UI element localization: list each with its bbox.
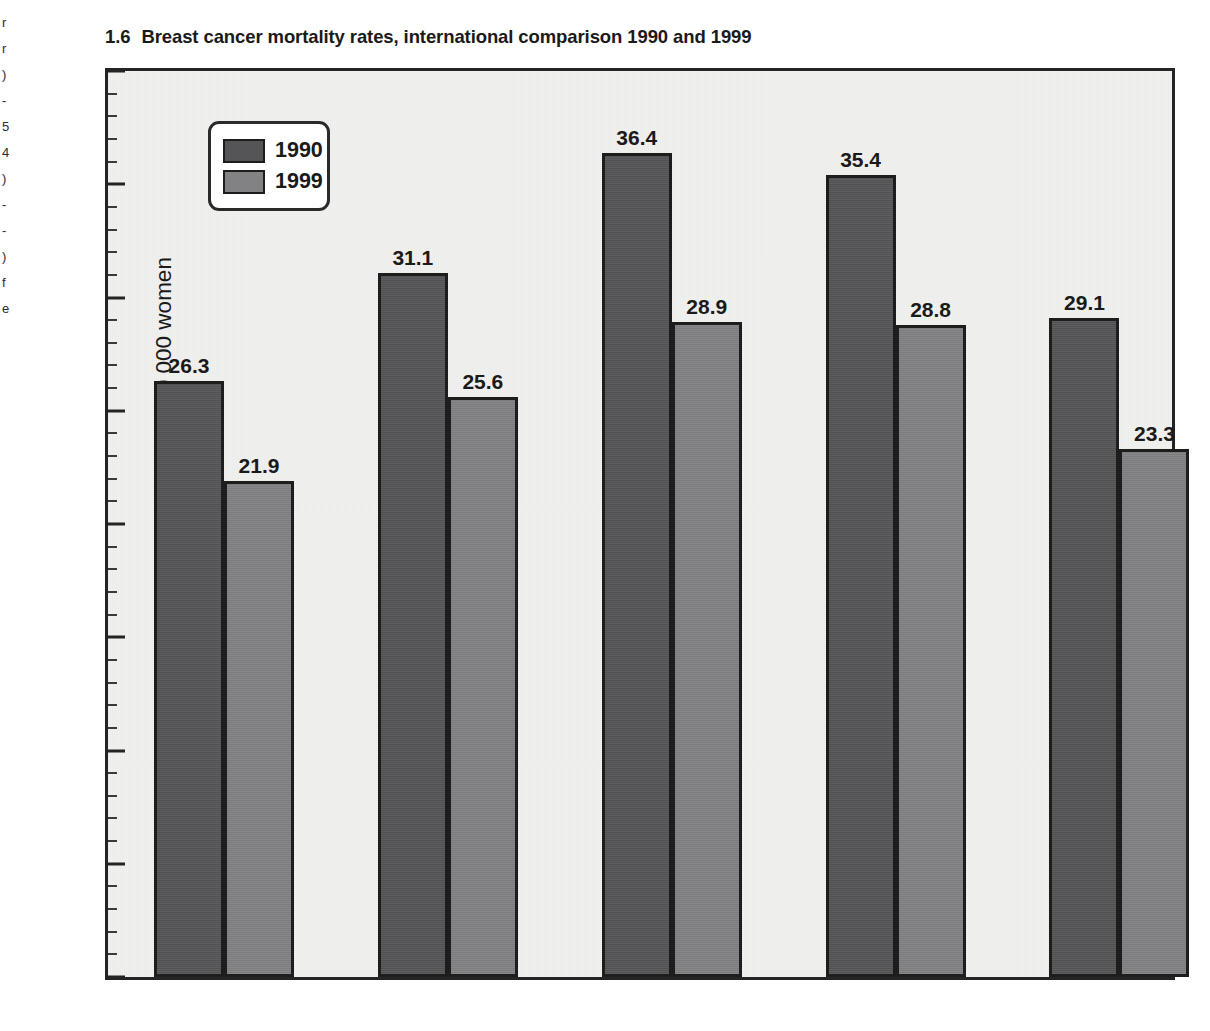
bleed-glyph: ) [2, 62, 18, 88]
bar-group: 29.123.3 [1049, 71, 1189, 977]
page-edge-bleed-text: rr)-54)--)fe [2, 10, 18, 400]
bar-1990[interactable]: 31.1 [378, 273, 448, 977]
legend-entry[interactable]: 1999 [223, 167, 327, 196]
y-axis-minor-tick [108, 885, 117, 887]
legend-swatch-icon [223, 170, 265, 194]
bar-value-label: 29.1 [1064, 291, 1105, 315]
bleed-glyph: - [2, 88, 18, 114]
y-axis-minor-tick [108, 727, 117, 729]
y-axis-minor-tick [108, 251, 117, 253]
y-axis-minor-tick [108, 138, 117, 140]
bar-value-label: 31.1 [392, 246, 433, 270]
bar-fill-texture [675, 325, 739, 974]
legend-swatch-icon [223, 139, 265, 163]
y-axis-minor-tick [108, 908, 117, 910]
chart-legend: 19901999 [208, 121, 330, 211]
bleed-glyph: r [2, 36, 18, 62]
bar-value-label: 26.3 [169, 354, 210, 378]
bar-fill-texture [157, 384, 221, 974]
y-axis-minor-tick [108, 500, 117, 502]
bar-fill-texture [381, 276, 445, 974]
bar-fill-texture [451, 400, 515, 974]
y-axis-major-tick [108, 183, 125, 186]
y-axis-minor-tick [108, 840, 117, 842]
bar-1990[interactable]: 26.3 [154, 381, 224, 977]
bar-fill-texture [227, 484, 291, 974]
y-axis-minor-tick [108, 704, 117, 706]
bar-group: 31.125.6 [378, 71, 518, 977]
y-axis-minor-tick [108, 659, 117, 661]
y-axis-minor-tick [108, 953, 117, 955]
figure-number: 1.6 [105, 26, 130, 47]
bar-1990[interactable]: 35.4 [826, 175, 896, 977]
bar-1999[interactable]: 28.8 [896, 325, 966, 977]
bleed-glyph: f [2, 270, 18, 296]
bar-1999[interactable]: 25.6 [448, 397, 518, 977]
bleed-glyph: e [2, 296, 18, 322]
bleed-glyph: ) [2, 166, 18, 192]
y-axis-minor-tick [108, 568, 117, 570]
bleed-glyph: ) [2, 244, 18, 270]
legend-label: 1999 [275, 169, 323, 194]
y-axis-major-tick [108, 976, 125, 979]
bar-value-label: 36.4 [616, 126, 657, 150]
bar-value-label: 28.9 [686, 295, 727, 319]
y-axis-major-tick [108, 70, 125, 73]
y-axis-minor-tick [108, 387, 117, 389]
legend-label: 1990 [275, 138, 323, 163]
y-axis-minor-tick [108, 93, 117, 95]
figure-title: 1.6Breast cancer mortality rates, intern… [105, 26, 751, 48]
y-axis-minor-tick [108, 206, 117, 208]
y-axis-minor-tick [108, 274, 117, 276]
legend-entry[interactable]: 1990 [223, 136, 327, 165]
figure-title-text: Breast cancer mortality rates, internati… [141, 26, 751, 47]
y-axis-minor-tick [108, 478, 117, 480]
bar-group: 35.428.8 [826, 71, 966, 977]
bar-value-label: 23.3 [1134, 422, 1175, 446]
y-axis-major-tick [108, 523, 125, 526]
bar-group: 36.428.9 [602, 71, 742, 977]
y-axis-minor-tick [108, 795, 117, 797]
y-axis-minor-tick [108, 591, 117, 593]
y-axis-minor-tick [108, 115, 117, 117]
bar-value-label: 28.8 [910, 298, 951, 322]
y-axis-minor-tick [108, 931, 117, 933]
bar-fill-texture [605, 156, 669, 974]
y-axis-minor-tick [108, 817, 117, 819]
y-axis-minor-tick [108, 432, 117, 434]
bar-1990[interactable]: 36.4 [602, 153, 672, 977]
chart-plot-area: Number of deaths from breast cancer per … [105, 68, 1175, 980]
y-axis-minor-tick [108, 161, 117, 163]
bar-fill-texture [899, 328, 963, 974]
y-axis-minor-tick [108, 229, 117, 231]
bar-fill-texture [1122, 452, 1186, 974]
y-axis-minor-tick [108, 546, 117, 548]
y-axis-minor-tick [108, 319, 117, 321]
y-axis-minor-tick [108, 342, 117, 344]
bleed-glyph: r [2, 10, 18, 36]
bar-fill-texture [1052, 321, 1116, 974]
bleed-glyph: - [2, 218, 18, 244]
y-axis-major-tick [108, 636, 125, 639]
bar-1999[interactable]: 23.3 [1119, 449, 1189, 977]
bar-1990[interactable]: 29.1 [1049, 318, 1119, 977]
bar-1999[interactable]: 21.9 [224, 481, 294, 977]
y-axis-major-tick [108, 409, 125, 412]
bar-fill-texture [829, 178, 893, 974]
y-axis-minor-tick [108, 682, 117, 684]
bar-value-label: 21.9 [239, 454, 280, 478]
y-axis-major-tick [108, 296, 125, 299]
bleed-glyph: - [2, 192, 18, 218]
bleed-glyph: 5 [2, 114, 18, 140]
y-axis-minor-tick [108, 772, 117, 774]
bar-value-label: 35.4 [840, 148, 881, 172]
bar-1999[interactable]: 28.9 [672, 322, 742, 977]
y-axis-minor-tick [108, 614, 117, 616]
y-axis-major-tick [108, 749, 125, 752]
bleed-glyph: 4 [2, 140, 18, 166]
y-axis-minor-tick [108, 455, 117, 457]
y-axis-major-tick [108, 862, 125, 865]
bar-value-label: 25.6 [462, 370, 503, 394]
y-axis-minor-tick [108, 364, 117, 366]
